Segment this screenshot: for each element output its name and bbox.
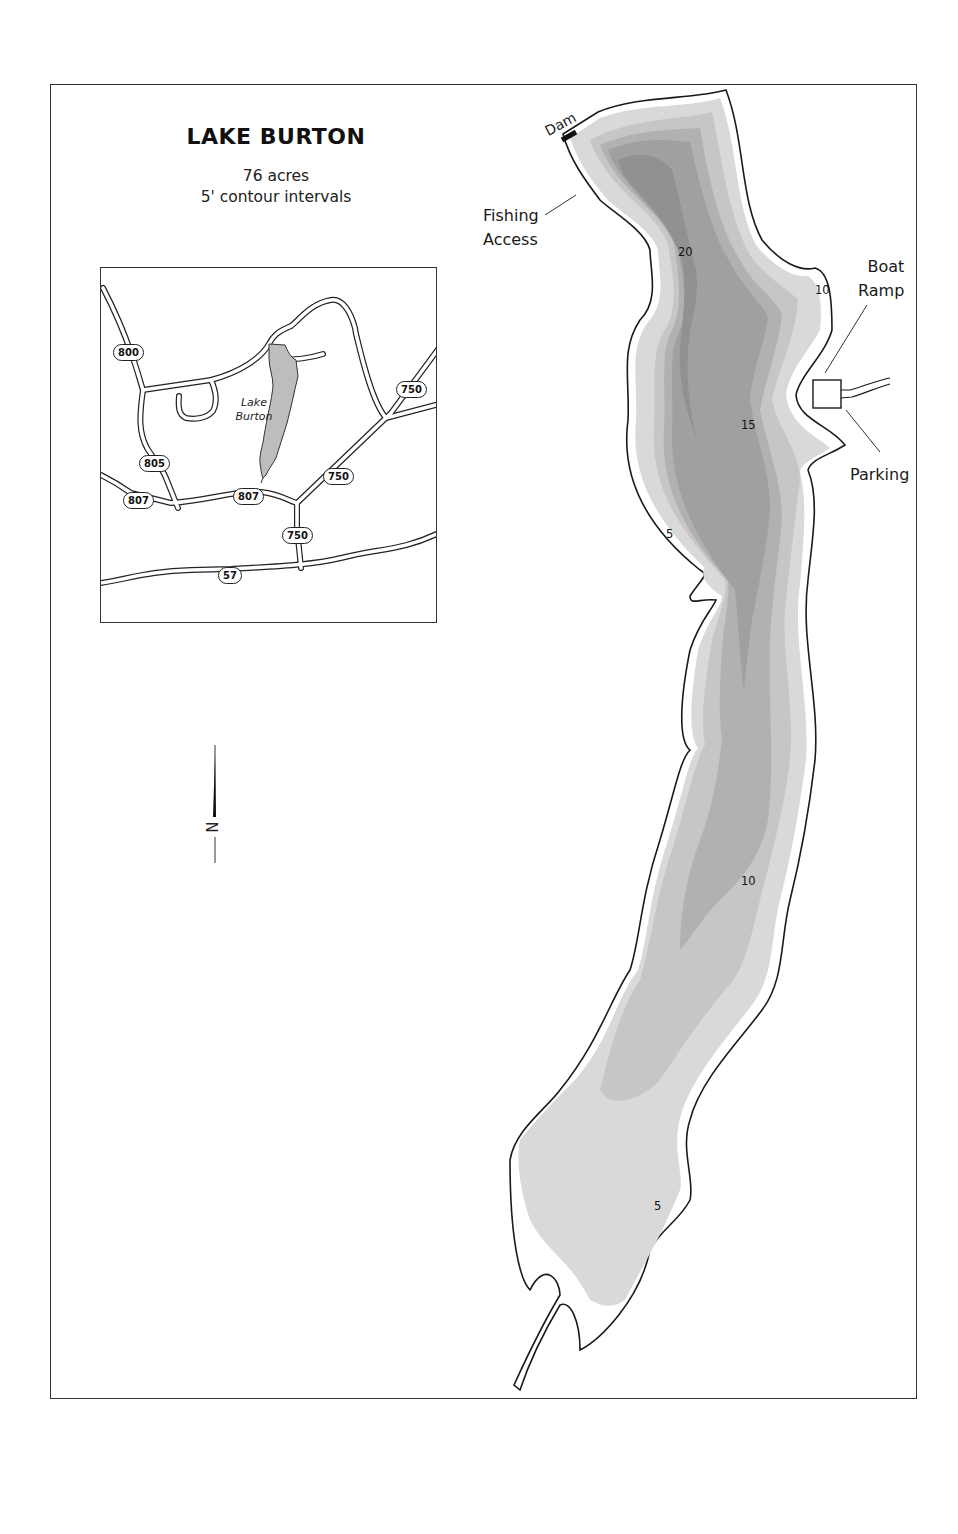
boat-ramp-line2: Ramp [858, 279, 904, 303]
depth-label: 5 [654, 1199, 661, 1213]
fishing-access-line2: Access [483, 228, 539, 252]
boat-ramp-label: Boat Ramp [858, 255, 904, 303]
fishing-access-label: Fishing Access [483, 204, 539, 252]
access-road [841, 378, 890, 398]
lake-bathymetry-map [0, 0, 958, 1534]
boat-ramp-structure [813, 380, 841, 408]
boat-ramp-line1: Boat [858, 255, 904, 279]
parking-label: Parking [850, 463, 909, 487]
depth-label: 15 [741, 418, 756, 432]
depth-label: 5 [666, 527, 673, 541]
depth-label: 20 [678, 245, 693, 259]
depth-label: 10 [815, 283, 830, 297]
fishing-access-line1: Fishing [483, 204, 539, 228]
depth-label: 10 [741, 874, 756, 888]
